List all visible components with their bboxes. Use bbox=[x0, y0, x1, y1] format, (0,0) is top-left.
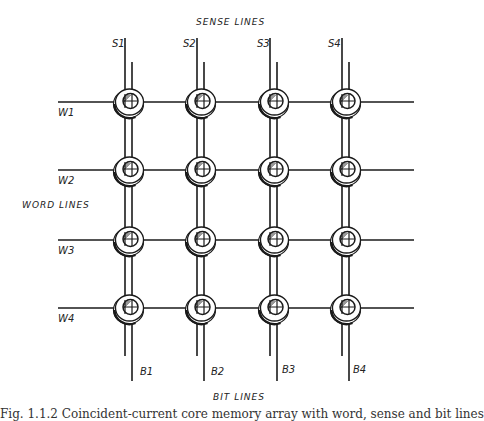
ferrite-core-icon bbox=[259, 89, 289, 118]
ferrite-core-icon bbox=[114, 227, 144, 256]
bit-lines-title: BIT LINES bbox=[213, 392, 265, 402]
bit-line-label-b3: B3 bbox=[282, 364, 295, 375]
ferrite-core-icon bbox=[331, 89, 361, 118]
figure-caption: Fig. 1.1.2 Coincident-current core memor… bbox=[0, 407, 432, 421]
word-line-label-w4: W4 bbox=[58, 313, 74, 324]
word-line-label-w3: W3 bbox=[58, 245, 74, 256]
ferrite-core-icon bbox=[114, 89, 144, 118]
sense-line-label-s1: S1 bbox=[112, 38, 125, 49]
ferrite-core-icon bbox=[186, 227, 216, 256]
sense-line-label-s2: S2 bbox=[183, 38, 196, 49]
ferrite-core-icon bbox=[186, 157, 216, 186]
ferrite-core-icon bbox=[186, 89, 216, 118]
bit-line-label-b4: B4 bbox=[353, 364, 366, 375]
ferrite-core-icon bbox=[259, 157, 289, 186]
ferrite-core-icon bbox=[114, 295, 144, 324]
ferrite-core-icon bbox=[259, 295, 289, 324]
word-lines-title: WORD LINES bbox=[22, 200, 90, 210]
ferrite-core-icon bbox=[186, 295, 216, 324]
word-line-label-w2: W2 bbox=[58, 175, 74, 186]
ferrite-core-icon bbox=[331, 295, 361, 324]
word-line-label-w1: W1 bbox=[58, 107, 74, 118]
ferrite-core-icon bbox=[114, 157, 144, 186]
ferrite-core-icon bbox=[331, 227, 361, 256]
ferrite-core-icon bbox=[331, 157, 361, 186]
sense-line-label-s3: S3 bbox=[257, 38, 270, 49]
sense-lines-title: SENSE LINES bbox=[196, 17, 265, 27]
sense-line-label-s4: S4 bbox=[328, 38, 341, 49]
ferrite-core-icon bbox=[259, 227, 289, 256]
bit-line-label-b2: B2 bbox=[211, 366, 224, 377]
bit-line-label-b1: B1 bbox=[140, 366, 153, 377]
